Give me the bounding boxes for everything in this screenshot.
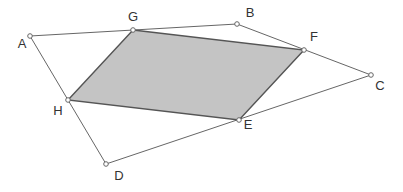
diagram-svg: A G B F C E D H <box>0 0 403 192</box>
label-b: B <box>246 5 255 20</box>
label-h: H <box>53 103 62 118</box>
shaded-quadrilateral-gfeh <box>68 30 304 120</box>
label-c: C <box>375 78 384 93</box>
label-g: G <box>128 9 138 24</box>
point-g-icon <box>131 28 136 33</box>
point-f-icon <box>302 48 307 53</box>
point-e-icon <box>237 118 242 123</box>
point-c-icon <box>369 73 374 78</box>
point-h-icon <box>66 98 71 103</box>
geometry-diagram: A G B F C E D H <box>0 0 403 192</box>
label-e: E <box>244 117 253 132</box>
point-d-icon <box>104 162 109 167</box>
point-b-icon <box>235 22 240 27</box>
point-a-icon <box>28 34 33 39</box>
label-f: F <box>310 29 318 44</box>
label-d: D <box>114 168 123 183</box>
label-a: A <box>18 36 27 51</box>
